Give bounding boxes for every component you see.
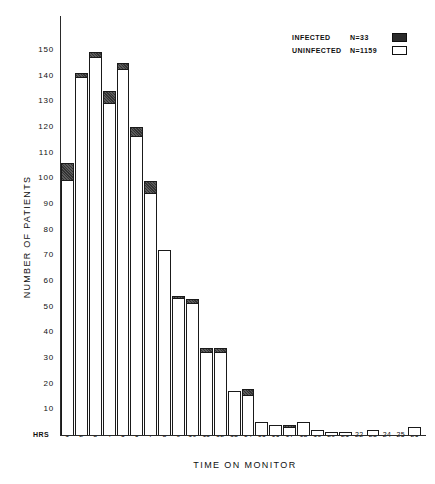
bar-segment-infected <box>242 389 255 397</box>
y-tick-label: 90 <box>26 199 54 208</box>
y-tick-label: 70 <box>26 250 54 259</box>
bar-column <box>408 427 421 435</box>
x-axis-line <box>60 435 426 436</box>
y-tick-label: 110 <box>26 148 54 157</box>
y-tick-label: 140 <box>26 71 54 80</box>
bar-segment-infected <box>172 296 185 299</box>
bar-segment-infected <box>200 348 213 353</box>
plot-area <box>60 16 426 436</box>
bar-column <box>61 163 74 435</box>
bar-column <box>269 425 282 435</box>
bar-column <box>255 422 268 435</box>
bar-segment-infected <box>103 91 116 104</box>
bar-column <box>103 91 116 435</box>
bar-column <box>367 430 380 435</box>
y-tick-label: 130 <box>26 96 54 105</box>
bar-column <box>158 250 171 435</box>
y-tick-label: 120 <box>26 122 54 131</box>
hrs-unit-label: HRS <box>33 431 49 438</box>
y-tick-label: 10 <box>26 404 54 413</box>
bar-column <box>172 296 185 435</box>
bar-column <box>144 181 157 435</box>
bar-column <box>339 432 352 435</box>
y-tick-label: 60 <box>26 276 54 285</box>
bar-segment-infected <box>283 425 296 428</box>
bar-segment-infected <box>117 63 130 71</box>
y-tick-label: 30 <box>26 353 54 362</box>
bar-segment-infected <box>144 181 157 194</box>
y-tick-label: 20 <box>26 379 54 388</box>
y-tick-label: 40 <box>26 327 54 336</box>
histogram-figure: INFECTED N=33 UNINFECTED N=1159 NUMBER O… <box>0 0 435 484</box>
bar-segment-infected <box>75 73 88 78</box>
y-tick-label: 50 <box>26 302 54 311</box>
bar-segment-infected <box>214 348 227 353</box>
bar-segment-infected <box>61 163 74 181</box>
y-tick-label: 100 <box>26 173 54 182</box>
x-axis-title: TIME ON MONITOR <box>60 460 430 470</box>
y-tick-label: 150 <box>26 45 54 54</box>
bar-column <box>228 391 241 435</box>
bar-column <box>89 52 102 435</box>
bar-segment-infected <box>130 127 143 137</box>
bar-column <box>200 348 213 435</box>
bar-segment-infected <box>89 52 102 57</box>
bar-column <box>214 348 227 435</box>
bar-column <box>297 422 310 435</box>
bar-column <box>117 63 130 435</box>
bar-column <box>311 430 324 435</box>
bar-column <box>283 425 296 435</box>
bar-column <box>325 432 338 435</box>
bar-column <box>242 389 255 435</box>
bar-segment-infected <box>186 299 199 304</box>
y-tick-label: 80 <box>26 225 54 234</box>
bar-column <box>75 73 88 435</box>
bar-column <box>186 299 199 435</box>
bar-column <box>130 127 143 435</box>
